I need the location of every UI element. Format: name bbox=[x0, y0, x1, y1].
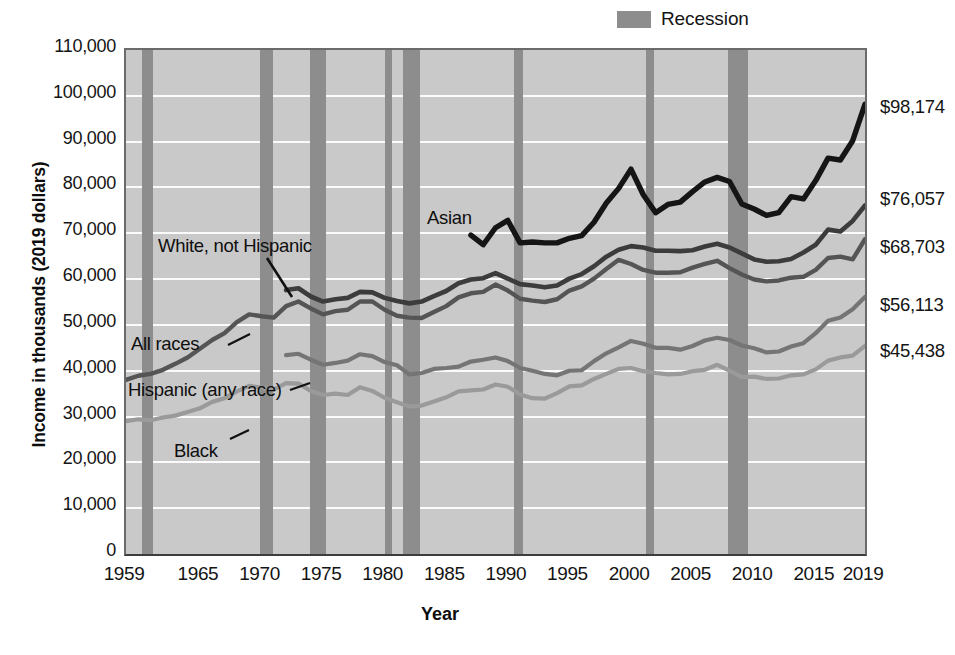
x-tick-label: 2015 bbox=[793, 563, 834, 585]
annotation-black: Black bbox=[174, 440, 218, 462]
y-tick-label: 0 bbox=[12, 540, 116, 561]
recession-swatch-icon bbox=[617, 11, 651, 28]
y-tick-label: 100,000 bbox=[12, 82, 116, 103]
y-tick-label: 110,000 bbox=[12, 36, 116, 57]
annotation-all-races: All races bbox=[131, 333, 199, 355]
x-axis-title: Year bbox=[0, 604, 880, 625]
end-label-white-not-hispanic: $76,057 bbox=[880, 188, 945, 210]
end-label-hispanic: $56,113 bbox=[880, 294, 943, 316]
x-tick-label: 2005 bbox=[670, 563, 711, 585]
y-tick-label: 50,000 bbox=[12, 311, 116, 332]
chart-root: Recession Income in thousands (2019 doll… bbox=[0, 0, 955, 655]
x-tick-label: 1980 bbox=[362, 563, 403, 585]
y-axis-ticks: 010,00020,00030,00040,00050,00060,00070,… bbox=[6, 0, 116, 655]
y-tick-label: 10,000 bbox=[12, 494, 116, 515]
x-tick-label: 2010 bbox=[732, 563, 773, 585]
y-tick-label: 90,000 bbox=[12, 128, 116, 149]
annotation-asian: Asian bbox=[427, 207, 472, 229]
annotation-white-not-hispanic: White, not Hispanic bbox=[158, 235, 312, 257]
x-tick-label: 1965 bbox=[178, 563, 219, 585]
x-tick-label: 1990 bbox=[485, 563, 526, 585]
series-line-hispanic bbox=[286, 297, 865, 375]
x-tick-label: 1975 bbox=[301, 563, 342, 585]
end-label-all-races: $68,703 bbox=[880, 236, 945, 258]
x-axis-ticks: 1959196519701975198019851990199520002005… bbox=[0, 563, 955, 603]
y-tick-label: 70,000 bbox=[12, 219, 116, 240]
plot-area bbox=[124, 48, 867, 556]
x-tick-label: 2000 bbox=[609, 563, 650, 585]
x-tick-label: 1995 bbox=[547, 563, 588, 585]
x-tick-label: 1985 bbox=[424, 563, 465, 585]
x-tick-label: 1959 bbox=[104, 563, 145, 585]
y-tick-label: 40,000 bbox=[12, 357, 116, 378]
y-tick-label: 20,000 bbox=[12, 448, 116, 469]
y-tick-label: 30,000 bbox=[12, 403, 116, 424]
x-tick-label: 2019 bbox=[843, 563, 884, 585]
chart-legend: Recession bbox=[617, 8, 749, 30]
series-lines bbox=[126, 50, 865, 554]
end-label-black: $45,438 bbox=[880, 340, 945, 362]
annotation-hispanic: Hispanic (any race) bbox=[128, 379, 282, 401]
y-tick-label: 60,000 bbox=[12, 265, 116, 286]
y-tick-label: 80,000 bbox=[12, 173, 116, 194]
x-tick-label: 1970 bbox=[239, 563, 280, 585]
legend-label-recession: Recession bbox=[661, 8, 749, 30]
plot-inner bbox=[126, 50, 865, 554]
end-label-asian: $98,174 bbox=[880, 96, 945, 118]
series-line-asian bbox=[471, 104, 865, 245]
